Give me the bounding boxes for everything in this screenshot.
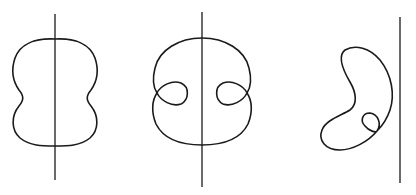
- figure-3: [321, 17, 400, 183]
- diagram-svg: [0, 0, 416, 195]
- figure-1: [13, 14, 98, 180]
- figure-2: [153, 12, 252, 187]
- figure-3-curve: [321, 47, 392, 150]
- diagram-canvas: [0, 0, 416, 195]
